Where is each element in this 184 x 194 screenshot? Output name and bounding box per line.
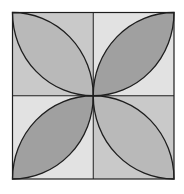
quadrant-petal-diagram [0,0,184,194]
